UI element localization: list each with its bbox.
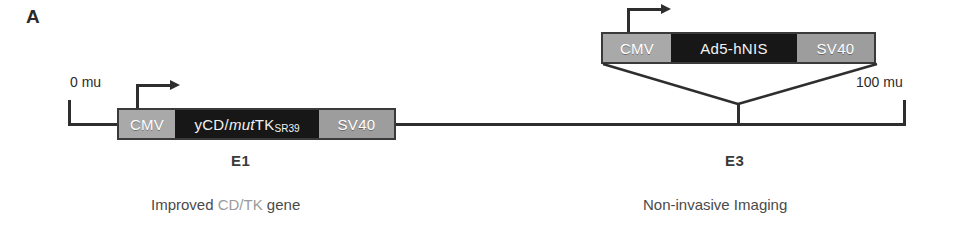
e3-promoter-box: CMV	[603, 34, 671, 62]
promoter-arrow-stem	[627, 8, 630, 34]
panel-label: A	[26, 6, 40, 28]
e3-insertion-stub	[737, 103, 740, 125]
e3-cassette: CMV Ad5-hNIS SV40	[601, 32, 876, 64]
promoter-arrow-stem	[136, 84, 139, 110]
region-label-e3: E3	[725, 152, 744, 169]
promoter-arrow-bar	[136, 84, 172, 87]
caption-e1-prefix: Improved	[151, 196, 218, 213]
e1-gene-prefix: yCD/	[194, 116, 229, 133]
e3-gene-box: Ad5-hNIS	[671, 34, 797, 62]
e3-insertion-connector	[595, 62, 885, 108]
genome-tick-right	[903, 100, 906, 125]
genome-tick-left	[68, 100, 71, 125]
e1-cassette: CMV yCD/mutTKSR39 SV40	[117, 108, 396, 140]
e1-gene-subscript: SR39	[275, 123, 300, 134]
caption-e1: Improved CD/TK gene	[151, 196, 300, 213]
e1-gene-suffix: TK	[255, 116, 275, 133]
e1-promoter-box: CMV	[119, 110, 175, 138]
map-unit-label-start: 0 mu	[70, 74, 101, 90]
promoter-arrow-head	[170, 80, 180, 90]
e3-polya-box: SV40	[797, 34, 874, 62]
e1-gene-italic: mut	[229, 116, 255, 133]
e1-polya-box: SV40	[319, 110, 394, 138]
caption-e1-highlight: CD/TK	[218, 196, 263, 213]
region-label-e1: E1	[231, 152, 250, 169]
promoter-arrow-head	[661, 4, 671, 14]
e1-gene-box: yCD/mutTKSR39	[175, 110, 319, 138]
caption-e1-suffix: gene	[263, 196, 301, 213]
figure-panel-a: A 0 mu 100 mu CMV yCD/mutTKSR39 SV40 E1 …	[0, 0, 964, 252]
caption-e3: Non-invasive Imaging	[643, 196, 787, 213]
promoter-arrow-bar	[627, 8, 663, 11]
